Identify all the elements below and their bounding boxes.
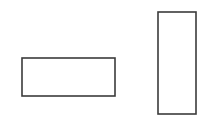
drawing-canvas bbox=[0, 0, 219, 136]
figure-svg bbox=[0, 0, 219, 136]
rectangle-landscape[interactable] bbox=[22, 58, 115, 96]
rectangle-portrait[interactable] bbox=[158, 12, 196, 114]
